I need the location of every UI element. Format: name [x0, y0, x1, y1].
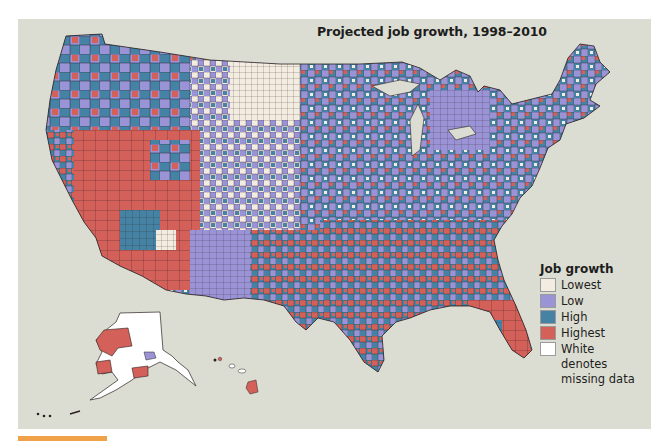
legend-item-missing: White denotes missing data [540, 342, 641, 372]
legend: Job growth Lowest Low High Highest White… [540, 262, 641, 372]
legend-swatch-high [540, 310, 556, 324]
legend-item-high: High [540, 310, 641, 326]
legend-swatch-highest [540, 326, 556, 340]
map-title: Projected job growth, 1998–2010 [317, 24, 547, 39]
legend-item-low: Low [540, 294, 641, 310]
accent-bar [18, 436, 107, 441]
hawaii [214, 357, 259, 394]
legend-item-highest: Highest [540, 326, 641, 342]
legend-title: Job growth [540, 262, 641, 276]
legend-swatch-lowest [540, 278, 556, 292]
legend-swatch-low [540, 294, 556, 308]
legend-item-lowest: Lowest [540, 278, 641, 294]
alaska [37, 312, 196, 417]
legend-swatch-missing [540, 342, 556, 356]
